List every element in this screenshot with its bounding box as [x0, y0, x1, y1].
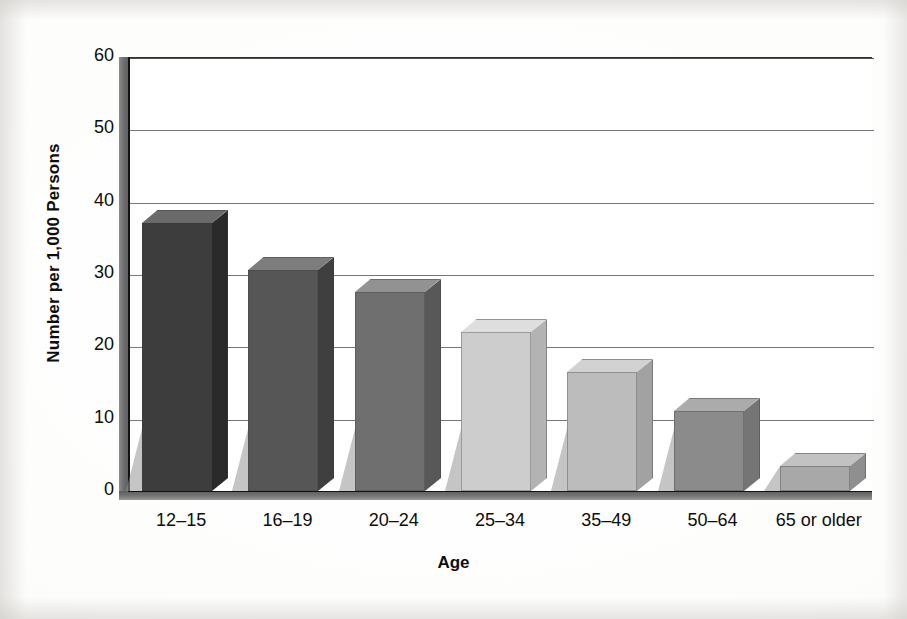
- gridline: [130, 275, 874, 276]
- bar-shadow: [551, 429, 567, 491]
- bar[interactable]: [674, 398, 744, 491]
- bar-shadow: [232, 429, 248, 491]
- bar-front-face: [674, 411, 744, 491]
- y-tick-label: 20: [54, 334, 114, 355]
- bar-side-face: [531, 319, 547, 491]
- y-tick-label: 10: [54, 407, 114, 428]
- bar-side-face: [425, 279, 441, 491]
- x-axis-title: Age: [0, 553, 907, 573]
- y-tick-label: 60: [54, 45, 114, 66]
- bar-shadow: [126, 429, 142, 491]
- gridline: [130, 203, 874, 204]
- bar-front-face: [248, 270, 318, 491]
- bar-front-face: [355, 292, 425, 491]
- bar-side-face: [212, 210, 228, 491]
- y-tick-label: 0: [54, 479, 114, 500]
- bar-front-face: [780, 466, 850, 491]
- plot-area: [128, 57, 872, 491]
- gridline: [130, 130, 874, 131]
- bar-shadow: [764, 466, 780, 491]
- bar-side-face: [637, 359, 653, 491]
- bar[interactable]: [461, 319, 531, 491]
- bar-front-face: [461, 332, 531, 491]
- y-axis-title: Number per 1,000 Persons: [44, 103, 64, 403]
- bar-chart-figure: Number per 1,000 Persons 0102030405060 1…: [0, 0, 907, 619]
- gridline: [130, 58, 874, 59]
- bar-shadow: [658, 429, 674, 491]
- bar-side-face: [744, 398, 760, 491]
- bar[interactable]: [567, 359, 637, 491]
- bar-front-face: [142, 223, 212, 491]
- bar-side-face: [318, 257, 334, 491]
- bar[interactable]: [780, 453, 850, 491]
- x-axis-3d-floor: [119, 491, 872, 500]
- y-tick-label: 40: [54, 190, 114, 211]
- bar-shadow: [445, 429, 461, 491]
- y-tick-label: 30: [54, 262, 114, 283]
- bar[interactable]: [248, 257, 318, 491]
- y-tick-label: 50: [54, 117, 114, 138]
- bar-shadow: [339, 429, 355, 491]
- x-tick-label: 65 or older: [746, 510, 892, 531]
- bar[interactable]: [355, 279, 425, 491]
- bar[interactable]: [142, 210, 212, 491]
- bar-front-face: [567, 372, 637, 491]
